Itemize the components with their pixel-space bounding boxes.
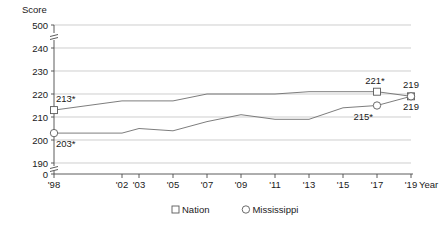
legend-marker-circle (242, 206, 249, 213)
x-tick-label: '07 (201, 179, 213, 190)
y-tick-label: 220 (32, 89, 48, 100)
x-tick-label: '19 (405, 179, 417, 190)
point-label-nation: 221* (365, 75, 385, 86)
chart-canvas: Score5002402302202102001900'98'02'03'05'… (0, 0, 441, 229)
y-tick-label: 230 (32, 66, 48, 77)
y-axis-title: Score (22, 4, 47, 15)
x-tick-label: '13 (303, 179, 315, 190)
axis-break-mark (50, 167, 58, 169)
y-tick-label: 190 (32, 158, 48, 169)
y-tick-label: 200 (32, 135, 48, 146)
x-tick-label: '03 (133, 179, 145, 190)
point-label-nation: 213* (56, 93, 76, 104)
legend-label-mississippi: Mississippi (252, 204, 298, 215)
axis-break-mark (50, 35, 58, 37)
y-tick-label: 240 (32, 43, 48, 54)
x-tick-label: '11 (269, 179, 281, 190)
x-tick-label: '15 (337, 179, 349, 190)
legend-marker-square (172, 206, 179, 213)
series-line-nation (54, 92, 411, 110)
axis-break-mark (50, 38, 58, 40)
marker-circle-mississippi (50, 129, 57, 136)
point-label-nation: 219 (403, 79, 419, 90)
y-tick-label: 210 (32, 112, 48, 123)
score-trend-chart: Score5002402302202102001900'98'02'03'05'… (0, 0, 441, 229)
y-tick-label: 500 (32, 20, 48, 31)
marker-circle-mississippi (373, 102, 380, 109)
marker-square-nation (51, 107, 58, 114)
point-label-mississippi: 215* (353, 111, 373, 122)
x-axis-title: Year (419, 179, 438, 190)
marker-square-nation (374, 88, 381, 95)
x-tick-label: '17 (371, 179, 383, 190)
y-tick-label: 0 (43, 169, 48, 180)
x-tick-label: '09 (235, 179, 247, 190)
marker-circle-mississippi (407, 93, 414, 100)
x-tick-label: '02 (116, 179, 128, 190)
legend-label-nation: Nation (182, 204, 209, 215)
x-tick-label: '05 (167, 179, 179, 190)
x-tick-label: '98 (48, 179, 60, 190)
point-label-mississippi: 203* (56, 138, 76, 149)
point-label-mississippi: 219 (403, 101, 419, 112)
